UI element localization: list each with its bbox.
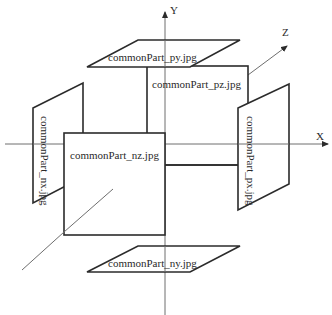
x-axis-label: X bbox=[316, 130, 324, 142]
z-axis-lower bbox=[22, 232, 64, 270]
face-px-label: commonPart_px.jpg bbox=[245, 116, 257, 206]
z-axis-label: Z bbox=[282, 26, 289, 38]
z-axis-upper bbox=[248, 46, 287, 75]
face-nx-label: commonPart_nx.jpg bbox=[39, 116, 51, 206]
face-nz-label: commonPart_nz.jpg bbox=[70, 149, 159, 161]
face-ny-label: commonPart_ny.jpg bbox=[108, 257, 197, 269]
face-pz-label: commonPart_pz.jpg bbox=[152, 78, 241, 90]
y-axis-label: Y bbox=[170, 4, 178, 16]
cube-map-diagram: commonPart_pz.jpg commonPart_py.jpg comm… bbox=[0, 0, 332, 315]
face-py-label: commonPart_py.jpg bbox=[108, 51, 197, 63]
